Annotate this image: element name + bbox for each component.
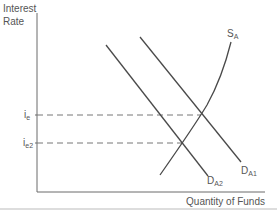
da2-label: DA2 [207, 175, 223, 187]
ie2-label: ie2 [23, 137, 33, 149]
y-axis-title-line2: Rate [3, 16, 25, 27]
ie-label: ie [24, 109, 30, 121]
chart-canvas: Interest Rate Quantity of Funds ie ie2 S… [0, 0, 277, 212]
demand-curve-da1 [140, 37, 241, 162]
demand-curve-da2 [106, 45, 208, 176]
y-axis-title-line1: Interest [3, 3, 37, 14]
x-axis-title: Quantity of Funds [186, 196, 265, 207]
da1-label: DA1 [241, 165, 257, 177]
sa-label: SA [227, 28, 239, 40]
supply-curve-sa [160, 42, 231, 175]
